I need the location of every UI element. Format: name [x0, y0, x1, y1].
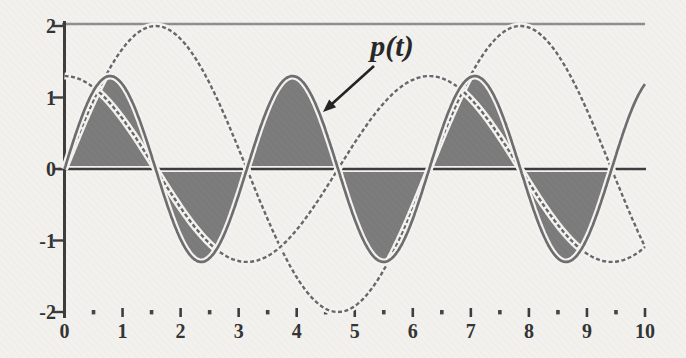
waveform-chart: -2-1012012345678910 p(t) [0, 0, 686, 358]
y-tick-label: 1 [46, 87, 56, 109]
x-tick-label: 1 [118, 320, 128, 342]
x-minor-tick-dot [150, 310, 154, 314]
p-of-t-label: p(t) [367, 29, 413, 63]
x-minor-tick-dot [92, 310, 96, 314]
x-tick-label: 3 [234, 320, 244, 342]
scanned-figure: -2-1012012345678910 p(t) [0, 0, 686, 358]
y-tick-label: -1 [39, 230, 56, 252]
x-tick-label: 8 [524, 320, 534, 342]
x-tick-label: 7 [466, 320, 476, 342]
y-tick-label: 2 [46, 15, 56, 37]
y-tick-label: 0 [46, 158, 56, 180]
x-minor-tick-dot [498, 310, 502, 314]
annotation-arrow [330, 66, 374, 106]
x-minor-tick-dot [382, 310, 386, 314]
x-minor-tick-dot [266, 310, 270, 314]
annotation-group: p(t) [323, 29, 414, 112]
x-minor-tick-dot [614, 310, 618, 314]
x-tick-label: 4 [292, 320, 302, 342]
x-tick-label: 2 [176, 320, 186, 342]
x-tick-label: 5 [350, 320, 360, 342]
x-tick-label: 6 [408, 320, 418, 342]
x-tick-label: 10 [635, 320, 655, 342]
x-minor-tick-dot [440, 310, 444, 314]
y-tick-label: -2 [39, 301, 56, 323]
x-minor-tick-dot [556, 310, 560, 314]
x-tick-label: 9 [582, 320, 592, 342]
x-minor-tick-dot [208, 310, 212, 314]
x-tick-label: 0 [60, 320, 70, 342]
